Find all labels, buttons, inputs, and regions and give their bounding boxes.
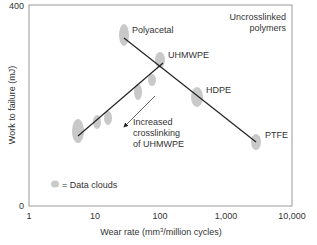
- plot-area: [29, 5, 292, 206]
- chart: Polyacetal UHMWPE HDPE PTFE Uncrosslinke…: [0, 0, 317, 245]
- label-hdpe: HDPE: [206, 85, 231, 95]
- x-tick-1000: 1,000: [215, 211, 238, 221]
- label-uhmwpe: UHMWPE: [168, 50, 209, 60]
- legend-label: = Data clouds: [62, 180, 118, 190]
- x-tick-100: 100: [152, 211, 167, 221]
- y-tick-400: 400: [9, 1, 24, 11]
- annotation-increased-2: crosslinking: [133, 128, 180, 138]
- annotation-uncrosslinked-2: polymers: [249, 23, 286, 33]
- x-axis-label-main: Wear rate (mm: [100, 227, 160, 237]
- x-axis-label: Wear rate (mm3/million cycles): [100, 227, 222, 237]
- data-cloud-polyacetal: [119, 24, 129, 46]
- x-tick-10: 10: [90, 211, 100, 221]
- annotation-increased-3: of UHMWPE: [133, 139, 184, 149]
- label-polyacetal: Polyacetal: [132, 25, 174, 35]
- chart-svg: Polyacetal UHMWPE HDPE PTFE Uncrosslinke…: [0, 0, 317, 245]
- x-tick-10000: 10,000: [278, 211, 306, 221]
- x-tick-1: 1: [26, 211, 31, 221]
- annotation-increased-1: Increased: [133, 117, 173, 127]
- legend-cloud-icon: [51, 181, 59, 188]
- y-axis-label: Work to failure (mJ): [7, 66, 17, 144]
- label-ptfe: PTFE: [265, 130, 288, 140]
- y-tick-0: 0: [19, 201, 24, 211]
- annotation-uncrosslinked-1: Uncrosslinked: [229, 12, 286, 22]
- data-cloud-crosslinked-5: [148, 74, 156, 86]
- data-cloud-crosslinked-1: [72, 119, 84, 143]
- x-axis-label-rest: /million cycles): [163, 227, 222, 237]
- data-cloud-hdpe: [191, 87, 203, 107]
